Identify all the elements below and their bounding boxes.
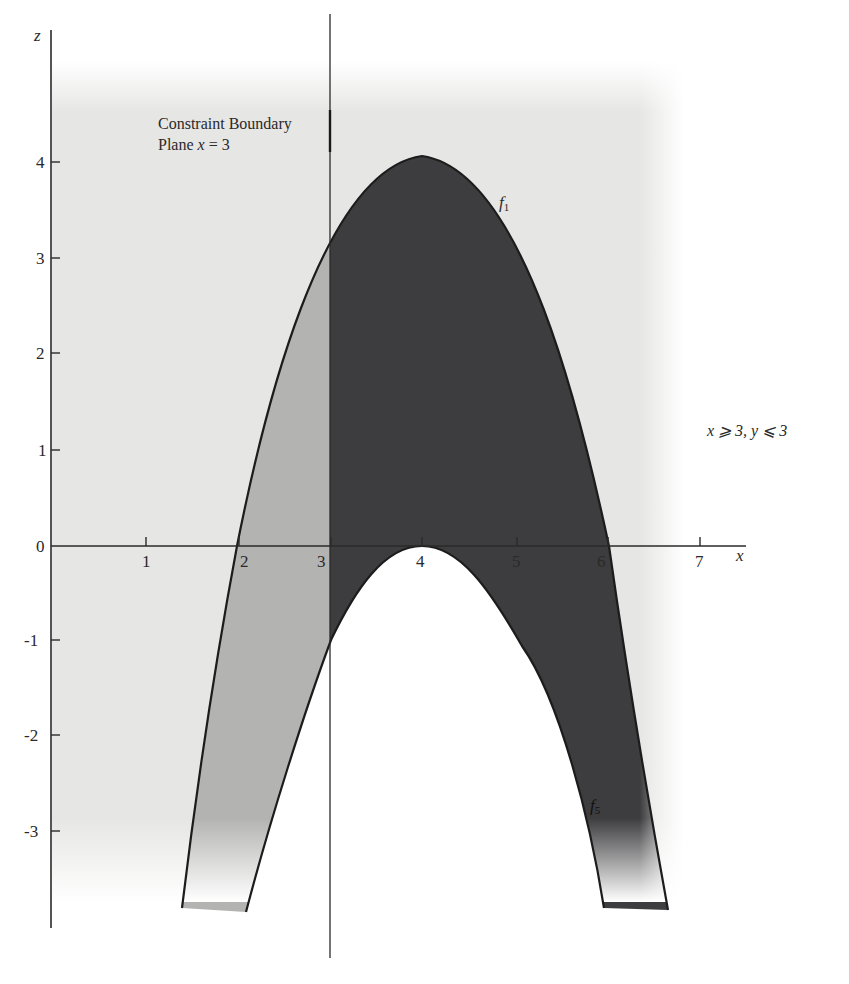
z-tick-label: 2	[36, 345, 45, 362]
feasible-region-annotation: x ⩾ 3, y ⩽ 3	[707, 423, 787, 439]
z-tick-label: 1	[38, 442, 47, 459]
z-tick-label: -2	[24, 727, 38, 744]
f5-label: f5	[590, 797, 600, 816]
z-tick-label: -1	[24, 632, 38, 649]
x-tick-label: 1	[142, 553, 151, 570]
z-tick-label: 3	[36, 250, 45, 267]
x-tick-label: 2	[240, 553, 249, 570]
constraint-annotation: Constraint Boundary Plane x = 3	[158, 113, 292, 155]
x-tick-label: 4	[416, 553, 425, 570]
chart-figure: z x 0 4 3 2 1 -1 -2 -3 1 2 3 4 5 6 7 Con…	[0, 0, 849, 984]
z-tick-label: 4	[36, 154, 45, 171]
constraint-annotation-line1: Constraint Boundary	[158, 113, 292, 134]
x-tick-label: 6	[597, 553, 606, 570]
constraint-annotation-line2: Plane x = 3	[158, 134, 292, 155]
x-tick-label: 5	[512, 553, 521, 570]
x-axis-label: x	[736, 547, 744, 564]
chart-canvas	[0, 0, 849, 984]
x-tick-label: 7	[695, 553, 704, 570]
x-tick-label: 3	[317, 553, 326, 570]
origin-label: 0	[36, 538, 45, 555]
f1-label: f1	[499, 194, 509, 213]
z-axis-label: z	[34, 27, 41, 44]
z-tick-label: -3	[24, 823, 38, 840]
